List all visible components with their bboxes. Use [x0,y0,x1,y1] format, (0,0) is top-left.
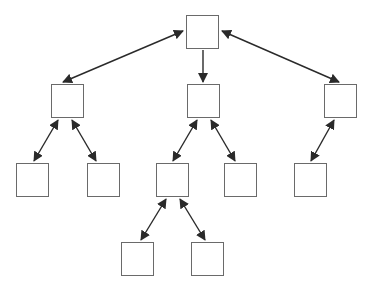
tree-node-root [186,15,219,49]
tree-node-middle-left [156,163,189,197]
edge-arrow-right-to-right-left [311,120,334,161]
tree-node-left-right [87,163,120,197]
edge-arrow-middle-left-to-middle-left-left [141,199,166,240]
edge-arrow-root-to-right [222,31,339,82]
tree-node-left-left [16,163,49,197]
edge-arrow-left-to-left-left [34,120,58,161]
tree-node-middle [187,84,220,118]
tree-node-left [51,84,84,118]
tree-node-right [324,84,357,118]
edge-arrow-left-to-left-right [72,120,96,161]
edge-arrow-middle-left-to-middle-left-right [180,199,205,240]
tree-diagram [0,0,368,289]
edge-arrow-middle-to-middle-left [173,120,197,161]
tree-node-middle-left-right [191,242,224,276]
tree-node-right-left [294,163,327,197]
edge-layer [0,0,368,289]
edge-arrow-middle-to-middle-right [211,120,235,161]
tree-node-middle-right [224,163,257,197]
tree-node-middle-left-left [121,242,154,276]
edge-arrow-root-to-left [63,31,183,82]
